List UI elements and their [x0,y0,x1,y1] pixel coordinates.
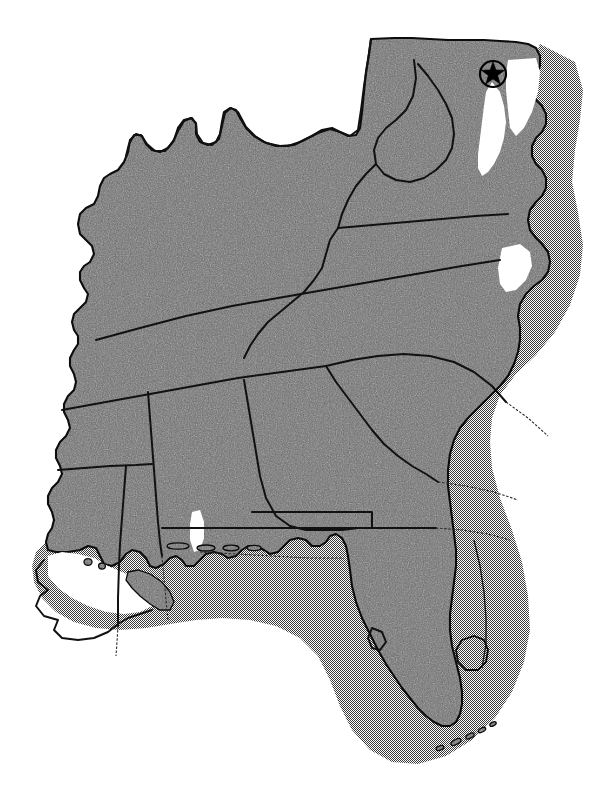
map-svg[interactable] [0,0,615,797]
map-canvas[interactable]: Southeastern United States Reference Map… [0,0,615,797]
